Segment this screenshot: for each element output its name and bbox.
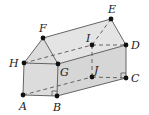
point-a	[21, 93, 26, 98]
label-d: D	[130, 39, 140, 52]
label-j: J	[92, 64, 99, 77]
point-b	[55, 94, 60, 99]
label-b: B	[52, 101, 61, 114]
point-c	[124, 76, 129, 81]
point-h	[22, 61, 27, 66]
point-e	[109, 17, 114, 22]
label-f: F	[38, 22, 47, 35]
label-g: G	[60, 66, 69, 79]
label-a: A	[18, 100, 27, 113]
label-c: C	[131, 72, 140, 85]
label-e: E	[107, 3, 116, 16]
point-f	[41, 36, 46, 41]
label-i: I	[85, 32, 91, 45]
label-h: H	[8, 57, 19, 70]
prism-diagram: A B C D E F G H I J	[0, 0, 149, 115]
point-d	[124, 43, 129, 48]
